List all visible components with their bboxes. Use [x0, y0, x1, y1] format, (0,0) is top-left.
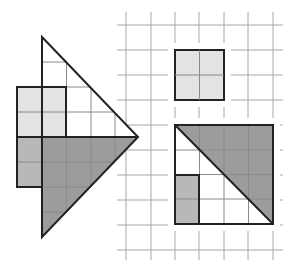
area-puzzle-diagram — [0, 0, 300, 276]
big-square — [175, 125, 273, 224]
small-light-square — [175, 50, 224, 100]
left-figure — [10, 30, 140, 240]
